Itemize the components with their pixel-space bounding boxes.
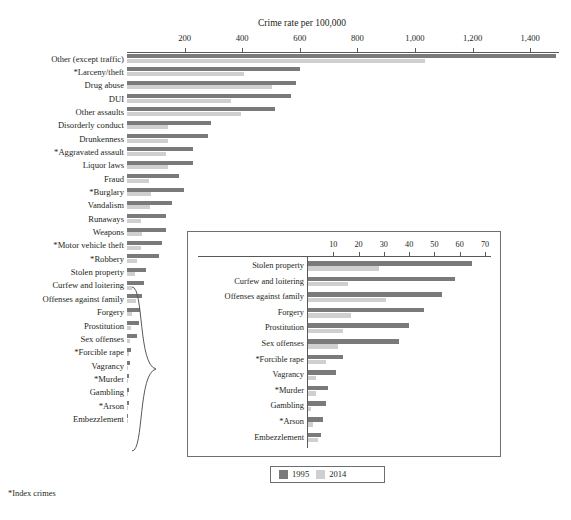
inset-bar-2014 (308, 313, 351, 318)
bar-1995 (127, 388, 129, 392)
inset-bar-1995 (308, 339, 399, 344)
bar-1995 (127, 228, 166, 232)
bar-1995 (127, 241, 162, 245)
bar-1995 (127, 174, 179, 178)
bar-1995 (127, 201, 172, 205)
bar-2014 (127, 165, 168, 169)
bar-2014 (127, 179, 149, 183)
x-tick-label: 600 (278, 33, 322, 43)
inset-category-label: Sex offenses (188, 340, 304, 348)
bar-1995 (127, 107, 275, 111)
inset-category-label: Vagrancy (188, 371, 304, 379)
inset-category-label: Embezzlement (188, 434, 304, 442)
bar-2014 (127, 379, 128, 383)
category-label: Stolen property (0, 268, 124, 277)
inset-category-label: *Arson (188, 418, 304, 426)
category-label: Prostitution (0, 322, 124, 331)
legend-swatch-1995 (279, 470, 288, 479)
bar-1995 (127, 121, 211, 125)
bar-1995 (127, 161, 193, 165)
bar-1995 (127, 374, 129, 378)
inset-bar-1995 (308, 370, 336, 375)
category-label: Offenses against family (0, 295, 124, 304)
inset-bar-1995 (308, 292, 442, 297)
bar-1995 (127, 414, 128, 418)
inset-bar-2014 (308, 344, 338, 349)
inset-x-axis-line (198, 256, 491, 257)
grouping-brace (130, 285, 158, 453)
inset-category-label: Prostitution (188, 324, 304, 332)
category-label: Runaways (0, 215, 124, 224)
bar-2014 (127, 392, 128, 396)
bar-2014 (127, 152, 166, 156)
inset-category-label: *Murder (188, 387, 304, 395)
category-label: *Arson (0, 402, 124, 411)
inset-category-label: Offenses against family (188, 293, 304, 301)
category-label: *Aggravated assault (0, 148, 124, 157)
inset-bar-1995 (308, 323, 409, 328)
category-label: Weapons (0, 228, 124, 237)
bar-1995 (127, 214, 166, 218)
bar-2014 (127, 125, 168, 129)
bar-2014 (127, 352, 129, 356)
x-tick-label: 800 (335, 33, 379, 43)
category-label: *Forcible rape (0, 348, 124, 357)
bar-1995 (127, 254, 159, 258)
bar-2014 (127, 72, 244, 76)
category-label: Drug abuse (0, 81, 124, 90)
footnote: *Index crimes (8, 489, 56, 498)
category-label: *Motor vehicle theft (0, 241, 124, 250)
category-label: Liquor laws (0, 161, 124, 170)
inset-bar-1995 (308, 277, 455, 282)
bar-2014 (127, 366, 128, 370)
inset-category-label: Gambling (188, 402, 304, 410)
category-label: Vandalism (0, 201, 124, 210)
category-label: *Murder (0, 375, 124, 384)
inset-bar-2014 (308, 329, 343, 334)
inset-bar-2014 (308, 282, 348, 287)
category-label: Gambling (0, 388, 124, 397)
crime-rate-chart-figure: Crime rate per 100,000 2004006008001,000… (0, 0, 571, 520)
bar-2014 (127, 246, 141, 250)
bar-2014 (127, 85, 272, 89)
bar-2014 (127, 219, 141, 223)
bar-1995 (127, 401, 129, 405)
category-label: Curfew and loitering (0, 281, 124, 290)
bar-2014 (127, 112, 241, 116)
inset-bar-2014 (308, 266, 379, 271)
inset-bar-1995 (308, 386, 328, 391)
bar-2014 (127, 192, 151, 196)
inset-x-tick-label: 70 (470, 240, 500, 249)
category-label: Drunkenness (0, 135, 124, 144)
category-label: Vagrancy (0, 362, 124, 371)
category-label: *Robbery (0, 255, 124, 264)
x-tick-label: 400 (220, 33, 264, 43)
bar-1995 (127, 81, 296, 85)
legend: 1995 2014 (270, 466, 385, 483)
bar-2014 (127, 59, 425, 63)
inset-bar-2014 (308, 438, 318, 443)
inset-bar-1995 (308, 433, 321, 438)
legend-item-2014: 2014 (316, 470, 346, 479)
category-label: DUI (0, 95, 124, 104)
bar-2014 (127, 139, 168, 143)
legend-label-1995: 1995 (292, 470, 309, 479)
category-label: Disorderly conduct (0, 121, 124, 130)
inset-category-label: Forgery (188, 309, 304, 317)
category-label: Other assaults (0, 108, 124, 117)
inset-bar-2014 (308, 407, 311, 412)
bar-1995 (127, 134, 208, 138)
bar-1995 (127, 54, 556, 58)
bar-2014 (127, 99, 231, 103)
category-label: Other (except traffic) (0, 55, 124, 64)
category-label: *Larceny/theft (0, 68, 124, 77)
inset-bar-1995 (308, 401, 326, 406)
inset-chart: 10203040506070 Stolen propertyCurfew and… (187, 231, 501, 457)
inset-bar-1995 (308, 261, 472, 266)
bar-1995 (127, 188, 184, 192)
x-tick-label: 200 (163, 33, 207, 43)
inset-category-label: *Forcible rape (188, 356, 304, 364)
inset-bar-2014 (308, 391, 316, 396)
bar-1995 (127, 94, 291, 98)
x-axis-title: Crime rate per 100,000 (258, 18, 346, 28)
